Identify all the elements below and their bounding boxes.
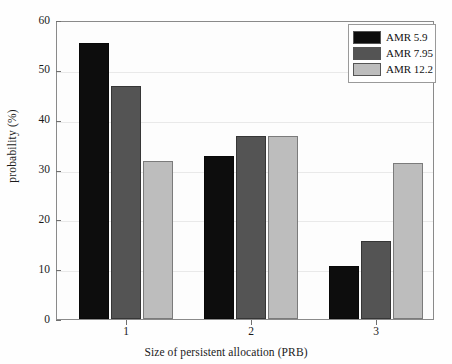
y-tickmark-60 xyxy=(56,21,61,22)
y-tickmark-0 xyxy=(56,320,61,321)
bar-amr7.95-cat3 xyxy=(361,241,391,319)
legend-swatch-amr7.95 xyxy=(353,47,381,60)
y-tickmark-40 xyxy=(56,121,61,122)
bar-amr7.95-cat1 xyxy=(111,86,141,319)
y-tick-label-10: 10 xyxy=(24,263,50,275)
legend-item-amr5.9: AMR 5.9 xyxy=(353,30,431,45)
legend-swatch-amr12.2 xyxy=(353,63,381,76)
y-tick-label-40: 40 xyxy=(24,113,50,125)
y-axis-title: probability (%) xyxy=(6,56,18,236)
y-tickmark-10 xyxy=(56,270,61,271)
bar-amr5.9-cat1 xyxy=(79,43,109,319)
bar-amr5.9-cat3 xyxy=(329,266,359,319)
legend: AMR 5.9 AMR 7.95 AMR 12.2 xyxy=(348,24,436,83)
x-tick-label-3: 3 xyxy=(356,325,396,337)
legend-label-amr7.95: AMR 7.95 xyxy=(386,48,433,59)
x-axis-title: Size of persistent allocation (PRB) xyxy=(0,346,452,358)
y-tick-label-0: 0 xyxy=(24,313,50,325)
legend-item-amr7.95: AMR 7.95 xyxy=(353,46,431,61)
y-tick-label-30: 30 xyxy=(24,163,50,175)
y-tickmark-30 xyxy=(56,171,61,172)
bar-amr7.95-cat2 xyxy=(236,136,266,319)
y-tick-label-50: 50 xyxy=(24,63,50,75)
legend-label-amr5.9: AMR 5.9 xyxy=(386,32,428,43)
bar-amr12.2-cat3 xyxy=(393,163,423,319)
x-tick-label-1: 1 xyxy=(106,325,146,337)
x-tick-label-2: 2 xyxy=(231,325,271,337)
legend-swatch-amr5.9 xyxy=(353,31,381,44)
legend-item-amr12.2: AMR 12.2 xyxy=(353,62,431,77)
y-tickmark-20 xyxy=(56,220,61,221)
y-tickmark-50 xyxy=(56,71,61,72)
bar-amr12.2-cat1 xyxy=(143,161,173,319)
bar-amr5.9-cat2 xyxy=(204,156,234,319)
y-tick-label-60: 60 xyxy=(24,14,50,26)
y-tick-label-20: 20 xyxy=(24,213,50,225)
legend-label-amr12.2: AMR 12.2 xyxy=(386,64,433,75)
bar-amr12.2-cat2 xyxy=(268,136,298,319)
figure: probability (%) 60 50 40 30 20 10 0 xyxy=(0,0,452,364)
